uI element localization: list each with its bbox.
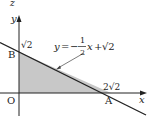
equation-denominator: 2 [80, 48, 85, 57]
y-axis-arrow-icon [17, 15, 22, 22]
line-equation-label: y = − 1 2 x + √2 [53, 36, 115, 57]
point-a-value-label: 2√2 [103, 82, 120, 92]
x-axis-label: x [139, 94, 145, 105]
equation-equals: = [61, 41, 69, 52]
point-a-label: A [104, 95, 113, 106]
equation-constant: √2 [102, 41, 115, 52]
equation-variable: x [87, 41, 93, 52]
equation-lhs: y [53, 41, 60, 52]
origin-label: O [7, 95, 15, 106]
y-axis-label: y [10, 13, 17, 24]
coordinate-diagram: z y x O B √2 A 2√2 y = − 1 2 x + √2 [0, 0, 148, 118]
top-z-label: z [9, 0, 15, 8]
equation-minus: − [70, 41, 78, 52]
equation-numerator: 1 [80, 36, 85, 45]
leader-arrow-icon [56, 66, 61, 70]
point-b-label: B [8, 49, 15, 60]
point-b-value-label: √2 [21, 40, 32, 50]
